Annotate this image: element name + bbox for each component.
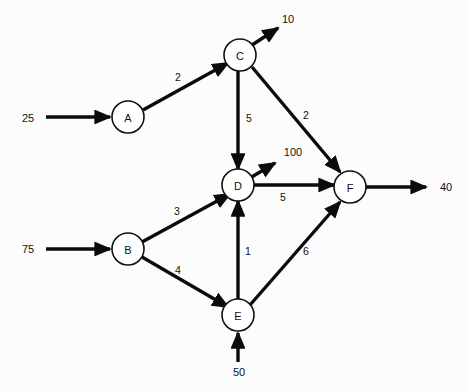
node-label-F: F: [347, 182, 354, 194]
input-value-E: 50: [233, 366, 245, 378]
edge-E-to-F: [250, 202, 340, 305]
edge-B-to-E-label: 4: [175, 264, 181, 276]
edge-C-to-D-label: 5: [246, 112, 252, 124]
network-flow-graph: ABCDEF 257550101004023452165: [0, 0, 469, 391]
node-label-E: E: [234, 310, 241, 322]
output-arrow-C: [252, 28, 278, 45]
edge-A-to-C-label: 2: [175, 71, 181, 83]
node-label-C: C: [236, 50, 244, 62]
edge-E-to-F-label: 6: [303, 245, 309, 257]
diagram-canvas: ABCDEF 257550101004023452165: [0, 0, 469, 391]
input-arrow-group: [46, 117, 238, 362]
node-label-A: A: [124, 112, 132, 124]
input-value-B: 75: [22, 243, 34, 255]
node-label-D: D: [234, 180, 242, 192]
node-label-B: B: [124, 244, 131, 256]
edge-D-to-F-label: 5: [280, 191, 286, 203]
output-value-F: 40: [440, 181, 452, 193]
edge-C-to-F-label: 2: [303, 109, 309, 121]
output-value-D: 100: [284, 146, 302, 158]
edge-B-to-E: [142, 257, 228, 307]
edge-A-to-C: [143, 63, 228, 110]
edge-B-to-C: [142, 194, 230, 242]
output-arrow-D: [250, 163, 275, 178]
edge-B-to-C-label: 3: [174, 205, 180, 217]
output-arrow-group: [250, 28, 426, 187]
output-value-C: 10: [282, 13, 294, 25]
edge-E-to-D-label: 1: [245, 245, 251, 257]
input-value-A: 25: [22, 112, 34, 124]
